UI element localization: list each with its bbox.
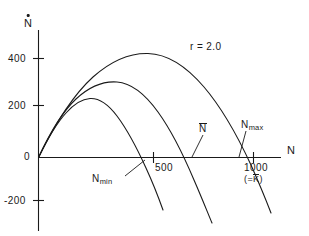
- annotation-n-min-sub: min: [100, 177, 113, 186]
- x-tick-label-500: 500: [155, 163, 173, 173]
- annotation-n-max-sub: max: [249, 123, 264, 132]
- annotation-n-max-base: N: [241, 119, 249, 130]
- leader-n-min: [125, 160, 145, 176]
- annotation-n-max: Nmax: [241, 120, 263, 130]
- y-tick-label-400: 400: [8, 54, 26, 64]
- annotation-growth-rate: r = 2.0: [190, 42, 221, 52]
- x-tick-label-1000: 1000: [244, 163, 268, 173]
- annotation-n-bar-base: N: [199, 124, 207, 134]
- curve-n-min: [39, 98, 164, 210]
- y-axis-title-text: N: [24, 18, 32, 29]
- y-tick-label-200: 200: [8, 101, 26, 111]
- annotation-n-min-base: N: [92, 173, 100, 184]
- x-axis-title: N: [287, 145, 295, 156]
- y-tick-label-0: 0: [24, 152, 30, 162]
- figure-container: N 400 200 0 -200 500 1000 (=K) N r = 2.0…: [0, 0, 309, 236]
- y-axis-title: N: [24, 18, 32, 29]
- k-symbol: K: [253, 175, 259, 184]
- annotation-n-min: Nmin: [92, 174, 112, 184]
- plot-canvas: [0, 0, 309, 236]
- y-tick-label-minus-200: -200: [4, 196, 26, 206]
- annotation-n-bar: N: [199, 124, 207, 134]
- leader-n-bar: [192, 135, 203, 157]
- curve-n-bar: [39, 82, 213, 223]
- x-tick-note-k: (=K): [244, 175, 263, 184]
